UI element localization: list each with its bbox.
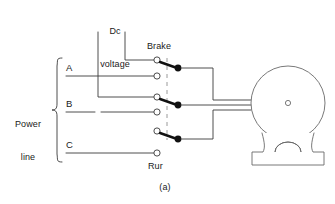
phase-label-a: A (66, 62, 72, 73)
contact-dot-top (175, 65, 182, 72)
motor-lead-bottom (181, 110, 251, 139)
contact-dot-bottom (175, 136, 182, 143)
contact-blade-bottom (160, 133, 177, 139)
contact-blade-top (160, 62, 177, 68)
phase-label-b: B (66, 98, 72, 109)
contact-dot-middle (175, 102, 182, 109)
terminal-phase-a (154, 73, 160, 79)
motor-shaft-center (285, 100, 290, 105)
motor-lead-top (181, 68, 251, 100)
dc-voltage-label-line1: Dc (86, 26, 144, 37)
figure-caption: (a) (145, 182, 185, 193)
terminal-phase-b (154, 109, 160, 115)
run-label: Rur (148, 161, 163, 172)
phase-label-c: C (66, 139, 73, 150)
brake-label: Brake (147, 41, 171, 52)
wiring-diagram-figure: Dc voltage Brake Rur Power line A B C (a… (0, 0, 335, 204)
dc-voltage-label: Dc voltage (86, 4, 144, 92)
power-line-label: Power line (4, 97, 52, 185)
terminal-phase-c (154, 150, 160, 156)
dc-voltage-label-line2: voltage (86, 59, 144, 70)
contact-blade-middle (160, 99, 177, 105)
power-line-label-line1: Power (4, 119, 52, 130)
power-line-brace (52, 58, 62, 162)
power-line-label-line2: line (4, 152, 52, 163)
